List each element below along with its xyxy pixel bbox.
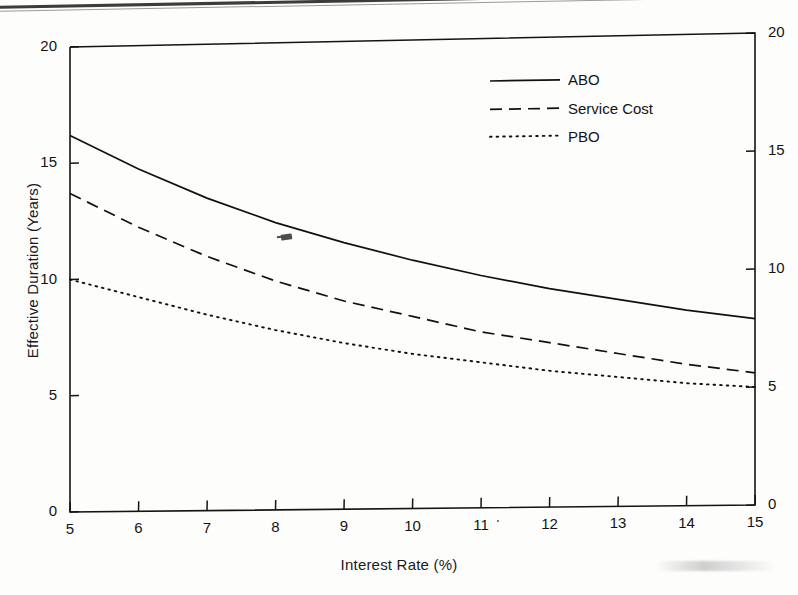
legend-line-service-cost	[490, 108, 560, 109]
y-tick-label-right-10: 10	[768, 259, 785, 276]
x-axis-ticks	[70, 495, 755, 512]
plot-canvas	[0, 0, 798, 595]
series-line-abo	[70, 135, 755, 318]
x-tick-label-7: 7	[203, 519, 211, 536]
x-tick-label-11: 11	[473, 516, 489, 533]
right-axis-ticks	[746, 33, 755, 505]
y-tick-label-10: 10	[40, 270, 57, 287]
y-tick-label-right-5: 5	[768, 377, 776, 394]
legend-sample-lines	[490, 80, 560, 137]
scan-dot-artifact	[497, 520, 499, 522]
legend-line-abo	[490, 80, 560, 81]
y-tick-label-20: 20	[40, 37, 57, 54]
legend-label-abo: ABO	[568, 71, 600, 88]
x-tick-label-10: 10	[404, 517, 421, 534]
series-line-service-cost	[70, 194, 755, 373]
data-series-group	[70, 135, 755, 387]
legend-label-service-cost: Service Cost	[568, 100, 653, 117]
y-tick-label-5: 5	[49, 386, 57, 403]
legend-line-pbo	[490, 136, 560, 137]
x-tick-label-5: 5	[66, 520, 74, 537]
x-tick-label-6: 6	[134, 519, 142, 536]
x-tick-label-9: 9	[340, 517, 348, 534]
x-axis-title: Interest Rate (%)	[0, 556, 798, 573]
legend-label-pbo: PBO	[568, 128, 600, 145]
x-tick-label-13: 13	[610, 514, 627, 531]
series-line-pbo	[70, 280, 755, 388]
x-tick-label-12: 12	[541, 515, 558, 532]
y-tick-label-0: 0	[49, 502, 57, 519]
y-tick-label-right-15: 15	[768, 141, 785, 158]
y-tick-label-15: 15	[40, 153, 57, 170]
y-tick-label-right-20: 20	[768, 23, 785, 40]
x-tick-label-15: 15	[747, 513, 764, 530]
x-tick-label-8: 8	[271, 518, 279, 535]
x-tick-label-14: 14	[678, 514, 695, 531]
y-axis-title: Effective Duration (Years)	[24, 161, 41, 381]
y-tick-label-right-0: 0	[768, 495, 776, 512]
chart-figure: Effective Duration (Years) Interest Rate…	[0, 0, 798, 595]
